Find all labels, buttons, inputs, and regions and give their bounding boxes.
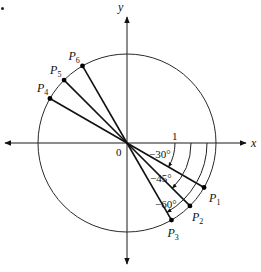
origin-label: 0	[116, 146, 122, 158]
point-label-p2: P2	[191, 210, 203, 226]
point-label-p4: P4	[36, 81, 48, 97]
point-p6	[80, 64, 85, 69]
point-p2	[188, 204, 193, 209]
point-label-p5: P5	[49, 63, 61, 79]
point-p4	[48, 96, 53, 101]
y-axis-label: y	[117, 0, 124, 14]
angle-arc-2	[172, 143, 191, 188]
point-p5	[62, 78, 67, 83]
point-p1	[202, 185, 207, 190]
point-label-p1: P1	[208, 191, 220, 207]
unit-label: 1	[172, 130, 178, 142]
point-label-p6: P6	[68, 49, 80, 65]
x-axis-label: x	[250, 136, 257, 150]
point-p3	[169, 218, 174, 223]
angle-label-2: −45°	[150, 172, 172, 184]
angle-label-1: −30°	[149, 148, 171, 160]
angle-arcs: −30°−45°−60°	[149, 143, 207, 212]
angle-label-3: −60°	[155, 198, 177, 210]
point-label-p3: P3	[167, 226, 179, 242]
unit-circle-diagram: x y 0 1 −30°−45°−60° P1P2P3P4P5P6	[0, 0, 261, 272]
axes: x y 0 1	[5, 0, 257, 264]
